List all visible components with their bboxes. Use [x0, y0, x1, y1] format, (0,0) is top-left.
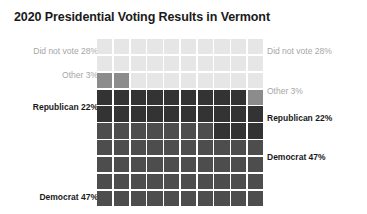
- waffle-cell: [248, 191, 263, 206]
- waffle-cell: [97, 140, 112, 155]
- waffle-cell: [231, 56, 246, 71]
- waffle-cell: [147, 123, 162, 138]
- label-right-other: Other 3%: [267, 86, 303, 96]
- waffle-cell: [248, 56, 263, 71]
- waffle-cell: [198, 157, 213, 172]
- waffle-cell: [214, 140, 229, 155]
- waffle-cell: [181, 39, 196, 54]
- waffle-cell: [147, 157, 162, 172]
- waffle-cell: [214, 106, 229, 121]
- waffle-cell: [114, 140, 129, 155]
- waffle-cell: [97, 123, 112, 138]
- waffle-cell: [164, 140, 179, 155]
- waffle-cell: [147, 174, 162, 189]
- waffle-chart: [97, 39, 263, 206]
- waffle-cell: [231, 123, 246, 138]
- waffle-cell: [231, 191, 246, 206]
- waffle-cell: [97, 157, 112, 172]
- waffle-cell: [198, 90, 213, 105]
- waffle-cell: [231, 174, 246, 189]
- waffle-grid: [97, 39, 263, 206]
- label-left-democrat: Democrat 47%: [39, 192, 98, 202]
- label-left-other: Other 3%: [62, 70, 98, 80]
- waffle-cell: [131, 123, 146, 138]
- waffle-cell: [248, 123, 263, 138]
- waffle-cell: [131, 140, 146, 155]
- waffle-cell: [181, 56, 196, 71]
- waffle-cell: [198, 56, 213, 71]
- waffle-cell: [114, 90, 129, 105]
- waffle-cell: [131, 157, 146, 172]
- waffle-cell: [198, 140, 213, 155]
- waffle-cell: [147, 56, 162, 71]
- waffle-cell: [131, 39, 146, 54]
- waffle-cell: [198, 123, 213, 138]
- waffle-cell: [164, 174, 179, 189]
- waffle-cell: [97, 90, 112, 105]
- waffle-cell: [181, 157, 196, 172]
- waffle-cell: [231, 106, 246, 121]
- waffle-cell: [181, 106, 196, 121]
- waffle-cell: [131, 191, 146, 206]
- waffle-cell: [214, 39, 229, 54]
- waffle-cell: [97, 191, 112, 206]
- waffle-cell: [147, 39, 162, 54]
- waffle-cell: [97, 39, 112, 54]
- waffle-cell: [181, 90, 196, 105]
- waffle-cell: [131, 73, 146, 88]
- waffle-cell: [231, 90, 246, 105]
- waffle-cell: [248, 157, 263, 172]
- waffle-cell: [214, 191, 229, 206]
- waffle-cell: [114, 39, 129, 54]
- waffle-cell: [231, 140, 246, 155]
- waffle-cell: [164, 191, 179, 206]
- waffle-cell: [198, 73, 213, 88]
- waffle-cell: [114, 56, 129, 71]
- waffle-cell: [181, 140, 196, 155]
- waffle-cell: [147, 106, 162, 121]
- waffle-cell: [147, 90, 162, 105]
- waffle-cell: [214, 73, 229, 88]
- waffle-cell: [181, 73, 196, 88]
- waffle-cell: [114, 191, 129, 206]
- waffle-cell: [248, 140, 263, 155]
- waffle-cell: [147, 191, 162, 206]
- waffle-cell: [131, 174, 146, 189]
- waffle-cell: [248, 106, 263, 121]
- waffle-cell: [114, 73, 129, 88]
- waffle-cell: [231, 39, 246, 54]
- label-right-did-not-vote: Did not vote 28%: [267, 46, 332, 56]
- waffle-cell: [198, 39, 213, 54]
- waffle-cell: [164, 106, 179, 121]
- waffle-cell: [114, 123, 129, 138]
- waffle-cell: [198, 106, 213, 121]
- waffle-cell: [214, 56, 229, 71]
- page-title: 2020 Presidential Voting Results in Verm…: [14, 10, 270, 24]
- waffle-cell: [248, 73, 263, 88]
- label-right-republican: Republican 22%: [267, 113, 332, 123]
- waffle-cell: [214, 174, 229, 189]
- label-left-republican: Republican 22%: [33, 102, 98, 112]
- waffle-cell: [198, 174, 213, 189]
- waffle-cell: [214, 90, 229, 105]
- waffle-cell: [164, 90, 179, 105]
- waffle-cell: [131, 56, 146, 71]
- waffle-cell: [147, 73, 162, 88]
- waffle-cell: [248, 90, 263, 105]
- waffle-cell: [164, 56, 179, 71]
- waffle-cell: [97, 73, 112, 88]
- waffle-cell: [131, 90, 146, 105]
- waffle-cell: [147, 140, 162, 155]
- waffle-cell: [164, 73, 179, 88]
- waffle-cell: [97, 106, 112, 121]
- label-left-did-not-vote: Did not vote 28%: [33, 46, 98, 56]
- waffle-cell: [231, 73, 246, 88]
- waffle-cell: [231, 157, 246, 172]
- waffle-cell: [164, 157, 179, 172]
- waffle-cell: [198, 191, 213, 206]
- waffle-cell: [164, 123, 179, 138]
- label-right-democrat: Democrat 47%: [267, 152, 326, 162]
- waffle-cell: [248, 174, 263, 189]
- waffle-cell: [214, 157, 229, 172]
- waffle-cell: [114, 174, 129, 189]
